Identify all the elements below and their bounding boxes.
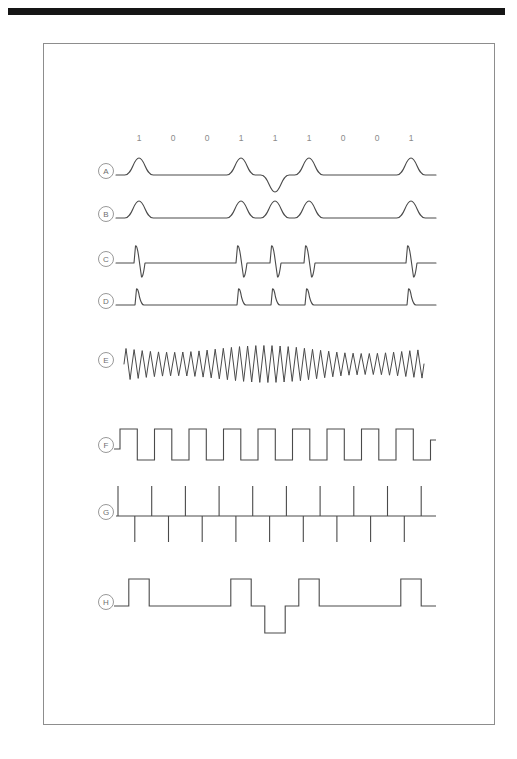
trace-g-ticks — [118, 486, 421, 542]
bit-label: 0 — [341, 133, 346, 143]
trace-d — [116, 289, 436, 305]
bit-label: 0 — [205, 133, 210, 143]
row-label-text: H — [103, 598, 109, 607]
bit-label: 1 — [273, 133, 278, 143]
waveform-diagram: 100111001ABCDEFGH — [44, 44, 496, 726]
row-label-text: G — [103, 508, 109, 517]
bit-label: 1 — [239, 133, 244, 143]
row-label-text: D — [103, 297, 109, 306]
row-label-h: H — [99, 595, 114, 610]
row-label-text: A — [103, 167, 109, 176]
row-label-e: E — [99, 353, 114, 368]
diagram-frame: 100111001ABCDEFGH — [43, 43, 495, 725]
bit-label: 0 — [171, 133, 176, 143]
row-label-text: E — [103, 356, 108, 365]
row-label-text: B — [103, 210, 108, 219]
bit-label: 1 — [137, 133, 142, 143]
bit-label: 1 — [409, 133, 414, 143]
row-label-g: G — [99, 505, 114, 520]
row-label-b: B — [99, 207, 114, 222]
row-label-c: C — [99, 252, 114, 267]
header-rule — [8, 8, 505, 15]
row-label-text: F — [104, 441, 109, 450]
trace-c — [116, 246, 436, 277]
bit-label: 0 — [375, 133, 380, 143]
row-label-a: A — [99, 164, 114, 179]
trace-e — [124, 346, 424, 383]
trace-h — [114, 579, 436, 633]
trace-f — [114, 429, 436, 460]
trace-b — [116, 201, 436, 218]
bit-label: 1 — [307, 133, 312, 143]
row-label-d: D — [99, 294, 114, 309]
row-label-text: C — [103, 255, 109, 264]
bit-sequence-labels: 100111001 — [137, 133, 414, 143]
trace-a — [116, 158, 436, 192]
row-label-f: F — [99, 438, 114, 453]
